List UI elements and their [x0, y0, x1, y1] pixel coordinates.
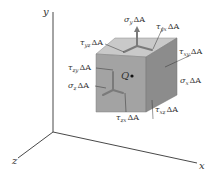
y-axis-label: y	[42, 6, 49, 17]
point-q-dot	[130, 74, 133, 77]
sigma-z-label: σzΔA	[68, 81, 89, 91]
x-axis	[53, 132, 197, 163]
stress-element-diagram: y x z Q	[0, 0, 216, 179]
point-q-label: Q	[121, 70, 129, 81]
sigma-y-label: σyΔA	[124, 15, 145, 26]
tau-zx-label: τzxΔA	[116, 113, 139, 123]
tau-zy-label: τzyΔA	[68, 63, 91, 74]
tau-yz-label: τyzΔA	[80, 38, 103, 49]
z-axis-label: z	[11, 155, 18, 166]
tau-xy-label: τxyΔA	[179, 47, 202, 58]
tau-yx-label: τyxΔA	[156, 22, 179, 33]
x-axis-label: x	[199, 160, 205, 171]
stress-cube	[96, 38, 177, 112]
z-axis	[18, 132, 53, 158]
sigma-x-label: σxΔA	[180, 76, 201, 86]
tau-xz-label: τxzΔA	[155, 105, 178, 115]
cube-front-face	[96, 54, 146, 112]
